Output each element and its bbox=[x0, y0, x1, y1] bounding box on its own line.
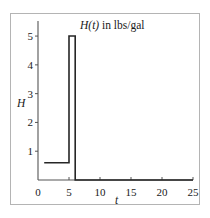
y-tick-label: 2 bbox=[22, 117, 33, 128]
x-tick-label: 20 bbox=[153, 187, 171, 198]
chart-title-italic-part: H(t) bbox=[80, 19, 99, 31]
y-axis-title: H bbox=[17, 98, 25, 110]
x-tick-label: 5 bbox=[60, 187, 78, 198]
y-tick-label: 5 bbox=[22, 31, 33, 42]
x-tick-label: 10 bbox=[91, 187, 109, 198]
x-axis-title: t bbox=[115, 195, 118, 207]
y-tick-label: 4 bbox=[22, 60, 33, 71]
data-series-line bbox=[44, 36, 193, 180]
y-tick-label: 1 bbox=[22, 146, 33, 157]
y-tick-label: 3 bbox=[22, 89, 33, 100]
x-tick-label: 15 bbox=[122, 187, 140, 198]
chart-figure: H(t) in lbs/gal H t 123450510152025 bbox=[0, 0, 210, 218]
plot-area bbox=[10, 13, 200, 205]
chart-title-roman-part: in lbs/gal bbox=[99, 19, 144, 31]
x-tick-label: 0 bbox=[29, 187, 47, 198]
chart-title: H(t) in lbs/gal bbox=[80, 20, 145, 32]
x-tick-label: 25 bbox=[184, 187, 202, 198]
